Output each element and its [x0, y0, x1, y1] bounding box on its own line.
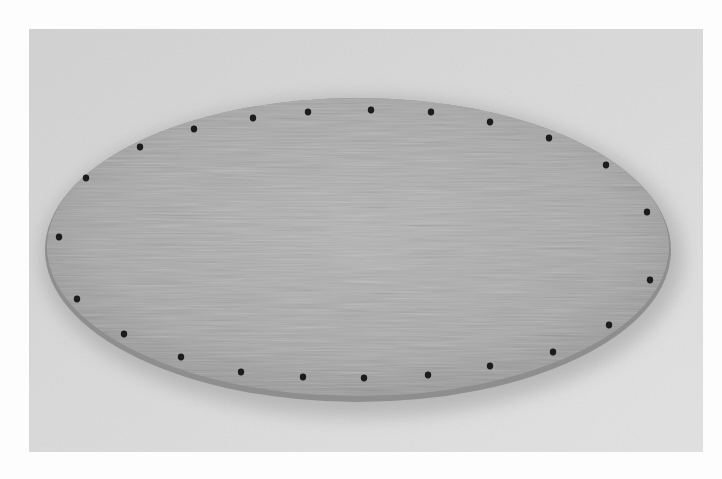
hole	[368, 107, 374, 114]
hole	[137, 144, 143, 151]
hole	[250, 115, 256, 122]
hole	[487, 119, 493, 126]
hole	[644, 209, 650, 216]
hole	[550, 349, 556, 356]
hole	[428, 109, 434, 116]
hole	[238, 369, 244, 376]
hole	[487, 363, 493, 370]
hole	[56, 234, 62, 241]
hole	[300, 374, 306, 381]
wood-grain-texture	[47, 98, 669, 396]
hole	[178, 354, 184, 361]
hole	[74, 296, 80, 303]
hole	[606, 322, 612, 329]
hole	[83, 175, 89, 182]
hole	[603, 162, 609, 169]
photo-backdrop	[29, 29, 703, 452]
hole	[647, 277, 653, 284]
hole	[361, 375, 367, 382]
basket-base-photo	[29, 29, 703, 452]
hole	[121, 331, 127, 338]
hole	[546, 135, 552, 142]
hole	[425, 372, 431, 379]
hole	[305, 109, 311, 116]
hole	[191, 126, 197, 133]
